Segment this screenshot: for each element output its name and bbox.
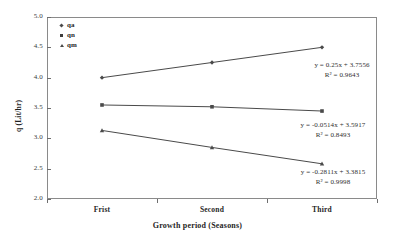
- data-point-qa-1: [210, 60, 214, 64]
- y-tick-label: 3.5: [21, 104, 43, 111]
- data-point-qn-0: [100, 103, 104, 107]
- x-tick-label: Third: [292, 205, 352, 214]
- annotation-qa: y = 0.25x + 3.7556 R² = 0.9643: [296, 61, 388, 80]
- x-tick-mark: [157, 199, 158, 203]
- scatter-line-chart: q (Lit/hr) 5.04.54.03.53.02.52.0 FristSe…: [0, 0, 395, 239]
- y-tick-label: 4.0: [21, 74, 43, 81]
- x-tick-mark: [47, 199, 48, 203]
- annotation-qn-equation: y = -0.0514x + 3.5917: [278, 121, 388, 131]
- data-point-qa-2: [320, 45, 324, 49]
- y-tick-label: 5.0: [21, 13, 43, 20]
- x-tick-mark: [377, 199, 378, 203]
- x-tick-label: Frist: [72, 205, 132, 214]
- annotation-qa-r2: R² = 0.9643: [296, 71, 388, 81]
- annotation-qn-r2: R² = 0.8493: [278, 131, 388, 141]
- y-tick-label: 2.5: [21, 165, 43, 172]
- x-tick-label: Second: [182, 205, 242, 214]
- annotation-qm: y = -0.2811x + 3.3815 R² = 0.9998: [278, 168, 388, 187]
- y-tick-label: 4.5: [21, 43, 43, 50]
- data-point-qa-0: [100, 75, 104, 79]
- data-point-qn-1: [210, 105, 214, 109]
- x-axis-title: Growth period (Seasons): [0, 221, 395, 230]
- y-tick-label: 2.0: [21, 195, 43, 202]
- annotation-qa-equation: y = 0.25x + 3.7556: [296, 61, 388, 71]
- annotation-qm-r2: R² = 0.9998: [278, 178, 388, 188]
- data-point-qn-2: [320, 109, 324, 113]
- annotation-qm-equation: y = -0.2811x + 3.3815: [278, 168, 388, 178]
- x-tick-mark: [267, 199, 268, 203]
- annotation-qn: y = -0.0514x + 3.5917 R² = 0.8493: [278, 121, 388, 140]
- y-tick-label: 3.0: [21, 134, 43, 141]
